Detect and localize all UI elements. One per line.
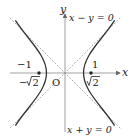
focus-right-dot [89, 71, 92, 74]
asymptote-label-x-minus-y: x − y = 0 [69, 12, 114, 23]
focus-left-label: − 2 [19, 77, 40, 89]
focus-right-label: 2 [87, 77, 100, 89]
svg-text:−: − [19, 77, 27, 88]
y-axis-label: y [59, 3, 67, 16]
vertex-left-label: −1 [17, 59, 32, 70]
hyperbola-diagram: y x O x − y = 0 x + y = 0 −1 1 − 2 2 [0, 0, 133, 138]
asymptote-label-x-plus-y: x + y = 0 [67, 124, 112, 135]
x-axis-label: x [122, 66, 129, 79]
focus-left-dot [37, 71, 40, 74]
origin-label: O [52, 77, 60, 88]
svg-text:2: 2 [33, 77, 39, 88]
svg-text:2: 2 [93, 77, 99, 88]
vertex-right-label: 1 [92, 59, 98, 70]
